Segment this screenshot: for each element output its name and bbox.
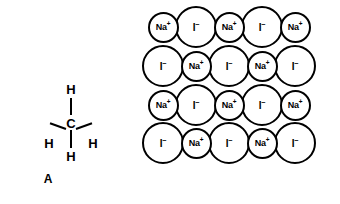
ion-label: Na+: [288, 22, 303, 32]
ion-label: I−: [292, 61, 299, 72]
atom-hydrogen-right: H: [86, 137, 100, 150]
ion-label: I−: [193, 22, 200, 33]
ion-iodide-anion: I−: [142, 45, 184, 87]
ion-iodide-anion: I−: [241, 84, 283, 126]
ion-label: Na+: [222, 22, 237, 32]
panel-a-methane-structure: H C H H H A: [0, 0, 145, 204]
ion-label: Na+: [156, 100, 171, 110]
ion-iodide-anion: I−: [208, 45, 250, 87]
ion-iodide-anion: I−: [208, 122, 250, 164]
panel-b-ionic-lattice: Na+I−Na+I−Na+I−Na+I−Na+I−Na+I−Na+I−Na+I−…: [145, 0, 340, 204]
ion-label: I−: [160, 138, 167, 149]
ion-label: I−: [292, 138, 299, 149]
atom-hydrogen-bottom: H: [64, 150, 78, 163]
figure-canvas: H C H H H A Na+I−Na+I−Na+I−Na+I−Na+I−Na+…: [0, 0, 340, 204]
ion-label: I−: [259, 100, 266, 111]
ion-label: I−: [259, 22, 266, 33]
ion-sodium-cation: Na+: [247, 128, 278, 159]
ion-iodide-anion: I−: [142, 122, 184, 164]
ion-sodium-cation: Na+: [280, 12, 311, 43]
ion-label: I−: [226, 61, 233, 72]
ion-iodide-anion: I−: [241, 6, 283, 48]
bond-carbon-hydrogen-right: [76, 122, 93, 130]
ion-sodium-cation: Na+: [280, 90, 311, 121]
ion-sodium-cation: Na+: [181, 128, 212, 159]
ion-label: Na+: [255, 61, 270, 71]
atom-hydrogen-left: H: [42, 137, 56, 150]
ion-sodium-cation: Na+: [214, 90, 245, 121]
ion-label: I−: [160, 61, 167, 72]
ion-iodide-anion: I−: [175, 84, 217, 126]
ion-sodium-cation: Na+: [148, 90, 179, 121]
atom-hydrogen-top: H: [64, 83, 78, 96]
ion-label: I−: [226, 138, 233, 149]
bond-carbon-hydrogen-bottom: [70, 130, 72, 148]
lattice-grid: Na+I−Na+I−Na+I−Na+I−Na+I−Na+I−Na+I−Na+I−…: [145, 0, 340, 168]
panel-a-caption: A: [38, 172, 58, 186]
ion-iodide-anion: I−: [274, 45, 316, 87]
ion-label: Na+: [222, 100, 237, 110]
ion-sodium-cation: Na+: [148, 12, 179, 43]
ion-label: I−: [193, 100, 200, 111]
ion-sodium-cation: Na+: [247, 51, 278, 82]
ion-iodide-anion: I−: [175, 6, 217, 48]
ion-label: Na+: [255, 138, 270, 148]
ion-iodide-anion: I−: [274, 122, 316, 164]
ion-label: Na+: [288, 100, 303, 110]
ion-sodium-cation: Na+: [214, 12, 245, 43]
ion-sodium-cation: Na+: [181, 51, 212, 82]
bond-carbon-hydrogen-top: [70, 98, 72, 115]
ion-label: Na+: [189, 138, 204, 148]
ion-label: Na+: [156, 22, 171, 32]
ion-label: Na+: [189, 61, 204, 71]
